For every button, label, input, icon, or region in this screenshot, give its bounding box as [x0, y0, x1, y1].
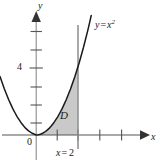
- origin-label: 0: [27, 137, 32, 147]
- vline-label-value: 2: [68, 147, 75, 158]
- curve-equation-label: y=x2: [95, 19, 115, 30]
- x-axis-arrowhead: [140, 130, 150, 139]
- vertical-line-label: x=2: [56, 148, 75, 158]
- y-axis-arrowhead: [32, 11, 41, 22]
- graph-canvas: [0, 0, 160, 166]
- y-axis-label: y: [38, 1, 42, 11]
- x-axis-label: x: [151, 132, 155, 142]
- curve-equation-exponent: 2: [112, 18, 116, 26]
- y-tick-label-4: 4: [17, 62, 22, 72]
- region-label-D: D: [60, 110, 68, 121]
- shaded-region-D: [36, 67, 78, 136]
- vline-label-equals: =: [60, 147, 68, 158]
- math-figure-parabola-region: y x 4 0 D y=x2 x=2: [0, 0, 160, 166]
- curve-equation-equals: =: [99, 19, 107, 30]
